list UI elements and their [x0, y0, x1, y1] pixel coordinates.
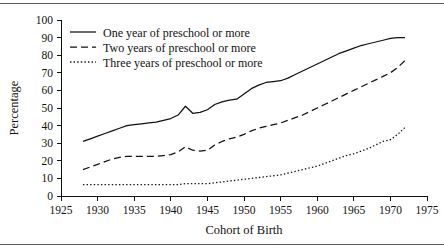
x-tick-label: 1930 [86, 204, 109, 216]
y-tick-marks [57, 20, 61, 196]
x-tick-label: 1940 [159, 204, 182, 216]
y-tick-label: 20 [42, 155, 54, 167]
figure-container: 0102030405060708090100 Percentage 192519… [0, 0, 444, 248]
x-tick-label: 1975 [416, 204, 439, 216]
y-tick-label: 90 [42, 32, 54, 44]
y-tick-label: 10 [42, 172, 54, 184]
legend-label-3: Three years of preschool or more [103, 56, 263, 70]
x-tick-label: 1925 [50, 204, 73, 216]
x-tick-label: 1950 [233, 204, 256, 216]
x-tick-label: 1965 [342, 204, 365, 216]
x-tick-marks [61, 196, 427, 201]
y-tick-label: 0 [47, 190, 53, 202]
x-tick-label: 1955 [269, 204, 292, 216]
legend-label-2: Two years of preschool or more [103, 41, 256, 55]
y-tick-label: 80 [42, 49, 54, 61]
line-chart: 0102030405060708090100 Percentage 192519… [0, 0, 444, 248]
y-tick-label: 40 [42, 120, 54, 132]
x-tick-labels: 1925193019351940194519501955196019651970… [50, 204, 439, 216]
y-axis-group: 0102030405060708090100 Percentage [7, 14, 61, 202]
y-tick-label: 50 [42, 102, 54, 114]
y-axis-title: Percentage [7, 80, 21, 135]
x-axis-title: Cohort of Birth [205, 223, 283, 237]
legend-label-1: One year of preschool or more [103, 26, 250, 40]
y-tick-label: 100 [36, 14, 54, 26]
chart-legend: One year of preschool or moreTwo years o… [70, 26, 263, 70]
y-tick-label: 30 [42, 137, 54, 149]
x-tick-label: 1960 [306, 204, 329, 216]
y-tick-label: 60 [42, 84, 54, 96]
y-tick-label: 70 [42, 67, 54, 79]
x-axis-group: 1925193019351940194519501955196019651970… [50, 196, 439, 237]
x-tick-label: 1935 [123, 204, 146, 216]
x-tick-label: 1970 [379, 204, 402, 216]
y-tick-labels: 0102030405060708090100 [36, 14, 54, 202]
x-tick-label: 1945 [196, 204, 219, 216]
